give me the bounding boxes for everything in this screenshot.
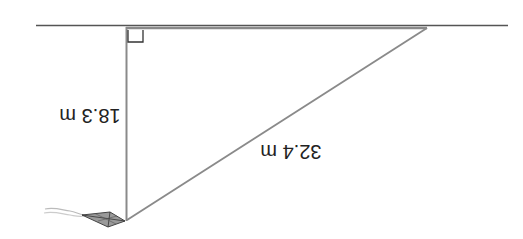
kite-string xyxy=(127,28,427,220)
kite-triangle-diagram: 18.3 m 32.4 m xyxy=(0,0,523,239)
vertical-leg-label: 18.3 m xyxy=(59,105,120,127)
kite-tail xyxy=(44,208,84,216)
kite-icon xyxy=(82,212,125,227)
right-angle-marker xyxy=(128,30,143,42)
hypotenuse-label: 32.4 m xyxy=(260,141,321,163)
